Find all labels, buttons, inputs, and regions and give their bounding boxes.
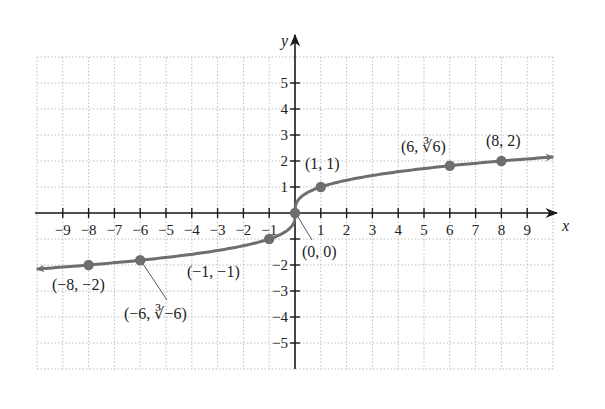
point-label-neg1: (−1, −1) (187, 263, 240, 281)
x-tick-label: −5 (158, 222, 174, 238)
point-label-8: (8, 2) (486, 132, 521, 150)
x-tick-label: 1 (317, 222, 325, 238)
data-point-marker (264, 234, 274, 244)
x-tick-label: 4 (394, 222, 402, 238)
y-tick-label: −5 (272, 335, 288, 351)
x-tick-label: 2 (343, 222, 351, 238)
x-tick-label: 9 (523, 222, 531, 238)
y-axis-label: y (279, 32, 289, 50)
data-point-marker (316, 182, 326, 192)
point-label-neg8: (−8, −2) (52, 276, 105, 294)
x-tick-label: 3 (369, 222, 377, 238)
y-tick-label: 3 (281, 127, 289, 143)
point-label-neg6: (−6, ∛−6) (124, 304, 187, 323)
y-tick-label: 2 (281, 153, 289, 169)
y-tick-label: 5 (281, 75, 289, 91)
x-tick-label: −3 (210, 222, 226, 238)
x-tick-label: −8 (81, 222, 97, 238)
x-tick-label: −9 (55, 222, 71, 238)
data-point-marker (135, 255, 145, 265)
y-tick-label: −2 (272, 257, 288, 273)
x-tick-label: 7 (472, 222, 480, 238)
data-point-marker (290, 208, 300, 218)
y-tick-label: −4 (272, 309, 288, 325)
point-label-origin: (0, 0) (302, 243, 337, 261)
data-point-marker (445, 161, 455, 171)
point-label-1: (1, 1) (305, 155, 340, 173)
leader-line-neg6 (143, 264, 167, 300)
x-tick-label: 5 (420, 222, 428, 238)
point-label-6: (6, ∛6) (401, 137, 446, 156)
x-tick-label: 8 (498, 222, 506, 238)
x-tick-label: −6 (132, 222, 148, 238)
x-axis-label: x (561, 217, 569, 234)
y-tick-label: −3 (272, 283, 288, 299)
data-point-marker (83, 260, 93, 270)
y-tick-label: 1 (281, 179, 289, 195)
leader-line-origin (298, 217, 312, 240)
x-tick-label: −4 (184, 222, 200, 238)
y-tick-label: 4 (281, 101, 289, 117)
x-tick-label: 6 (446, 222, 454, 238)
x-tick-label: −7 (106, 222, 122, 238)
data-point-marker (496, 156, 506, 166)
cube-root-chart: −9−8−7−6−5−4−3−2−112345678954321−2−3−4−5… (0, 0, 605, 409)
x-tick-label: −2 (235, 222, 251, 238)
point-labels: y x (−8, −2) (−6, ∛−6) (−1, −1) (0, 0) (… (52, 32, 569, 323)
